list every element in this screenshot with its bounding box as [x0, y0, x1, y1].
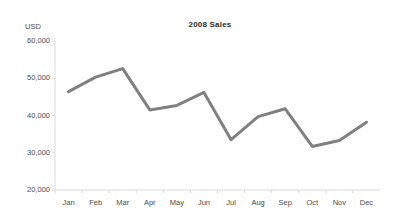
sales-data-line: [69, 69, 367, 147]
sales-line-chart: 2008 Sales USD 60,00050,00040,00030,0002…: [0, 0, 410, 224]
y-axis-tick-label: 20,000: [8, 185, 50, 194]
y-axis-tick-label: 50,000: [8, 73, 50, 82]
y-axis-tick-label: 40,000: [8, 111, 50, 120]
x-axis-tick-label: Dec: [349, 198, 383, 207]
y-axis-tick-label: 30,000: [8, 148, 50, 157]
plot-area: [0, 0, 410, 224]
y-axis-tick-label: 60,000: [8, 36, 50, 45]
